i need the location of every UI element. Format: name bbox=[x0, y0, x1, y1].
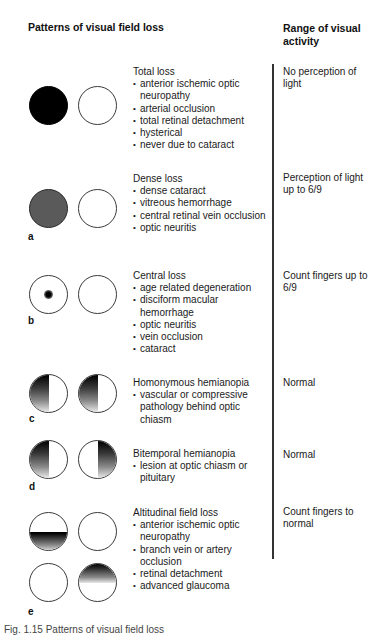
altitudinal-loss-description: Altitudinal field loss anterior ischemic… bbox=[133, 507, 273, 592]
panel-label-d: d bbox=[29, 481, 35, 492]
range-total-loss: No perception of light bbox=[283, 66, 375, 90]
right-eye-clear-icon bbox=[78, 189, 117, 228]
homonymous-hemianopia-description: Homonymous hemianopia vascular or compre… bbox=[133, 377, 273, 426]
row-title: Homonymous hemianopia bbox=[133, 377, 273, 389]
bullet-item: cataract bbox=[133, 343, 273, 355]
row-title: Altitudinal field loss bbox=[133, 507, 273, 519]
right-eye-clear-icon bbox=[78, 275, 117, 314]
bullet-item: arterial occlusion bbox=[133, 103, 273, 115]
dense-loss-description: Dense loss dense cataract vitreous hemor… bbox=[133, 173, 273, 234]
bitemporal-hemianopia-description: Bitemporal hemianopia lesion at optic ch… bbox=[133, 448, 273, 485]
right-eye-temporal-hemianopia-icon bbox=[78, 440, 117, 479]
bullet-item: never due to cataract bbox=[133, 139, 273, 151]
bullet-item: branch vein or artery occlusion bbox=[133, 544, 273, 568]
bullet-item: optic neuritis bbox=[133, 319, 273, 331]
right-eye-superior-altitudinal-icon bbox=[78, 563, 117, 602]
bullet-item: total retinal detachment bbox=[133, 115, 273, 127]
row-title: Central loss bbox=[133, 270, 273, 282]
patterns-header: Patterns of visual field loss bbox=[28, 21, 164, 34]
left-eye-left-hemianopia-icon bbox=[29, 374, 68, 413]
right-eye-left-hemianopia-icon bbox=[78, 374, 117, 413]
panel-label-b: b bbox=[28, 315, 34, 326]
left-eye-temporal-hemianopia-icon bbox=[29, 440, 68, 479]
bullet-item: retinal detachment bbox=[133, 568, 273, 580]
range-homonymous: Normal bbox=[283, 377, 375, 389]
bullet-item: optic neuritis bbox=[133, 222, 273, 234]
bullet-item: vitreous hemorrhage bbox=[133, 197, 273, 209]
bullet-item: lesion at optic chiasm or pituitary bbox=[133, 460, 273, 484]
bullet-item: vein occlusion bbox=[133, 331, 273, 343]
row-title: Dense loss bbox=[133, 173, 273, 185]
right-eye-clear-icon bbox=[78, 512, 117, 551]
panel-label-e: e bbox=[28, 606, 34, 617]
panel-label-a: a bbox=[28, 231, 34, 242]
range-altitudinal: Count fingers to normal bbox=[283, 506, 375, 530]
left-eye-inferior-altitudinal-icon bbox=[29, 512, 68, 551]
panel-label-c: c bbox=[29, 413, 35, 424]
row-title: Bitemporal hemianopia bbox=[133, 448, 273, 460]
left-eye-central-loss-icon bbox=[29, 275, 68, 314]
range-central-loss: Count fingers up to 6/9 bbox=[283, 270, 375, 294]
bullet-item: anterior ischemic optic neuropathy bbox=[133, 519, 273, 543]
right-eye-clear-icon bbox=[78, 86, 117, 125]
bullet-item: dense cataract bbox=[133, 185, 273, 197]
figure-caption: Fig. 1.15 Patterns of visual field loss bbox=[4, 624, 164, 635]
bullet-item: central retinal vein occlusion bbox=[133, 210, 273, 222]
bullet-item: disciform macular hemorrhage bbox=[133, 294, 273, 318]
range-header: Range of visual activity bbox=[283, 22, 378, 48]
left-eye-dense-loss-icon bbox=[29, 189, 68, 228]
left-eye-total-loss-icon bbox=[29, 86, 68, 125]
central-loss-description: Central loss age related degeneration di… bbox=[133, 270, 273, 355]
left-eye-clear-icon bbox=[29, 563, 68, 602]
row-title: Total loss bbox=[133, 66, 273, 78]
total-loss-description: Total loss anterior ischemic optic neuro… bbox=[133, 66, 273, 151]
bullet-item: hysterical bbox=[133, 127, 273, 139]
bullet-item: age related degeneration bbox=[133, 282, 273, 294]
bullet-item: vascular or compressive pathology behind… bbox=[133, 389, 273, 426]
bullet-item: anterior ischemic optic neuropathy bbox=[133, 78, 273, 102]
central-scotoma-icon bbox=[44, 290, 53, 299]
bullet-item: advanced glaucoma bbox=[133, 580, 273, 592]
range-bitemporal: Normal bbox=[283, 449, 375, 461]
range-dense-loss: Perception of light up to 6/9 bbox=[283, 172, 375, 196]
